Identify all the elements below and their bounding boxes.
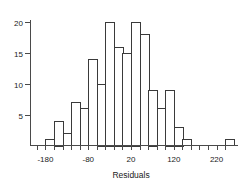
y-axis-tick-label: 15	[14, 50, 23, 59]
x-axis-tick-label: -180	[37, 155, 54, 164]
y-axis-ticks	[25, 23, 31, 116]
histogram-chart: 5101520 -180-8020120220 Residuals	[0, 0, 245, 189]
y-axis-tick-labels: 5101520	[14, 19, 23, 121]
histogram-bar	[226, 140, 235, 146]
histogram-bar	[166, 91, 175, 147]
bars-group	[46, 23, 235, 147]
x-axis-tick-label: 20	[127, 155, 136, 164]
x-axis-tick-label: 220	[210, 155, 224, 164]
histogram-bar	[72, 103, 81, 146]
histogram-bar	[123, 54, 132, 147]
histogram-svg: 5101520 -180-8020120220 Residuals	[0, 0, 245, 189]
y-axis-tick-label: 5	[19, 112, 24, 121]
histogram-bar	[46, 140, 55, 146]
x-axis-tick-labels: -180-8020120220	[37, 155, 223, 164]
x-axis-tick-label: -80	[82, 155, 94, 164]
histogram-bar	[55, 122, 64, 147]
y-axis-tick-label: 10	[14, 81, 23, 90]
x-axis-title: Residuals	[112, 170, 149, 180]
x-axis-tick-label: 120	[167, 155, 181, 164]
histogram-bar	[183, 140, 192, 146]
histogram-bar	[149, 91, 158, 147]
y-axis-tick-label: 20	[14, 19, 23, 28]
histogram-bar	[89, 60, 98, 146]
histogram-bar	[106, 23, 115, 147]
x-axis-ticks	[38, 146, 226, 151]
histogram-bar	[132, 23, 141, 147]
